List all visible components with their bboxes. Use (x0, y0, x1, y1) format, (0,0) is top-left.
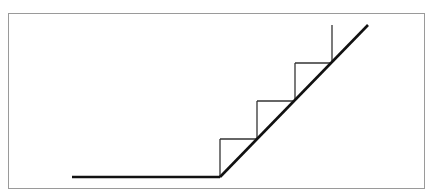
steps-group (220, 25, 332, 177)
staircase-diagram (0, 0, 434, 195)
ramp-line (220, 25, 368, 177)
